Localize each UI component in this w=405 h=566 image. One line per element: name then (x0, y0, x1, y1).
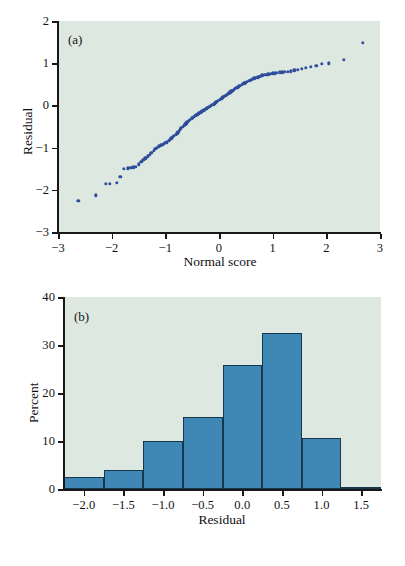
panel-a-y-tick (52, 232, 57, 234)
scatter-point (309, 65, 312, 68)
panel-a-y-tick-label: 1 (23, 56, 49, 71)
panel-a-tag: (a) (68, 32, 82, 48)
figure-container: (a) −3−2−10123−3−2−1012 Normal score Res… (0, 0, 405, 566)
panel-a-y-tick (52, 148, 57, 150)
panel-b-y-tick-label: 0 (25, 482, 55, 497)
panel-a-x-tick-label: 1 (269, 241, 275, 256)
panel-a-x-tick-label: −2 (105, 241, 119, 256)
panel-b-y-tick (58, 393, 63, 395)
panel-b-x-tick-label: −2.0 (72, 498, 95, 513)
histogram-bar (183, 417, 223, 489)
panel-a-x-tick-label: 2 (323, 241, 329, 256)
panel-b-x-tick-label: 0.5 (274, 498, 290, 513)
panel-b-y-tick (58, 345, 63, 347)
scatter-point (119, 175, 122, 178)
scatter-point (361, 41, 364, 44)
panel-b-x-tick-label: 1.5 (353, 498, 369, 513)
panel-a-x-tick (58, 234, 60, 239)
panel-a-x-tick (219, 234, 221, 239)
panel-a-y-tick-label: −3 (23, 225, 49, 240)
panel-a-normal-probability-plot: (a) −3−2−10123−3−2−1012 Normal score Res… (0, 0, 405, 283)
panel-b-x-tick-label: −1.5 (112, 498, 135, 513)
panel-a-y-axis-title: Residual (20, 108, 36, 155)
scatter-point (304, 66, 307, 69)
panel-b-x-tick-label: −0.5 (191, 498, 214, 513)
panel-b-x-tick (361, 491, 363, 496)
panel-b-y-tick-label: 30 (25, 338, 55, 353)
panel-b-x-tick (282, 491, 284, 496)
scatter-point (108, 182, 111, 185)
panel-b-y-tick (58, 297, 63, 299)
panel-b-x-axis-line (63, 489, 382, 491)
scatter-point (320, 62, 323, 65)
panel-a-x-tick-label: −3 (51, 241, 65, 256)
panel-b-y-tick (58, 441, 63, 443)
panel-b-x-tick-label: 0.0 (234, 498, 250, 513)
panel-a-x-tick (273, 234, 275, 239)
panel-b-x-axis-title: Residual (198, 512, 245, 528)
panel-b-y-axis-line (63, 297, 65, 491)
scatter-point (104, 182, 107, 185)
panel-a-x-tick (112, 234, 114, 239)
histogram-bar (143, 441, 183, 489)
panel-b-y-tick-label: 40 (25, 290, 55, 305)
panel-b-x-tick (123, 491, 125, 496)
panel-b-plot-area (64, 297, 381, 489)
histogram-bar (223, 365, 263, 489)
scatter-point (77, 199, 80, 202)
scatter-point (314, 64, 317, 67)
panel-b-histogram: (b) −2.0−1.5−1.0−0.50.00.51.01.501020304… (0, 283, 405, 566)
panel-a-x-tick (165, 234, 167, 239)
panel-b-x-tick (242, 491, 244, 496)
scatter-point (137, 163, 140, 166)
panel-b-y-axis-title: Percent (26, 383, 42, 423)
scatter-point (300, 67, 303, 70)
panel-b-tag: (b) (74, 309, 89, 325)
scatter-point (94, 194, 97, 197)
panel-a-x-tick (380, 234, 382, 239)
panel-a-x-tick (326, 234, 328, 239)
panel-a-y-tick-label: 2 (23, 14, 49, 29)
panel-a-y-tick (52, 21, 57, 23)
panel-b-y-tick (58, 489, 63, 491)
scatter-point (115, 181, 118, 184)
panel-b-x-tick (203, 491, 205, 496)
panel-a-y-axis-line (57, 21, 59, 234)
panel-b-x-tick (322, 491, 324, 496)
histogram-bar (104, 470, 144, 489)
panel-a-plot-area (58, 21, 380, 232)
panel-b-x-tick (163, 491, 165, 496)
histogram-bar (262, 333, 302, 489)
histogram-bar (302, 438, 342, 489)
panel-a-y-tick-label: −2 (23, 182, 49, 197)
scatter-point (327, 61, 330, 64)
panel-a-x-axis-title: Normal score (183, 254, 256, 270)
panel-b-x-tick (84, 491, 86, 496)
panel-b-x-tick-label: 1.0 (314, 498, 330, 513)
panel-a-x-tick-label: −1 (159, 241, 173, 256)
panel-b-y-tick-label: 10 (25, 434, 55, 449)
histogram-bar (64, 477, 104, 489)
scatter-point (342, 58, 345, 61)
panel-a-y-tick (52, 105, 57, 107)
panel-b-x-tick-label: −1.0 (152, 498, 175, 513)
panel-a-y-tick (52, 190, 57, 192)
panel-a-x-tick-label: 3 (377, 241, 383, 256)
panel-a-y-tick (52, 63, 57, 65)
